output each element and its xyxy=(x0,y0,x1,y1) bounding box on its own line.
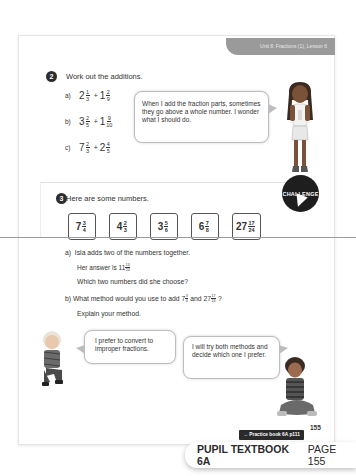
challenge-badge: CHALLENGE xyxy=(282,175,319,212)
unit-lesson-tab: Unit 8: Fractions (1), Lesson 6 xyxy=(226,38,335,55)
number-card: 4 23 xyxy=(109,213,137,240)
boy-right-speech-bubble: I will try both methods and decide which… xyxy=(183,336,280,379)
number-card: 3 56 xyxy=(150,213,178,240)
bubble-tail xyxy=(268,104,277,114)
girl-speech-bubble: When I add the fraction parts, sometimes… xyxy=(134,91,269,143)
part-a-question: Which two numbers did she choose? xyxy=(77,278,188,285)
crouching-boy-character-icon xyxy=(36,330,70,390)
girl-character-icon xyxy=(283,80,317,175)
sitting-boy-character-icon xyxy=(275,355,319,423)
sum-c: c) 7 23 + 2 45 xyxy=(65,141,112,154)
practice-book-link[interactable]: → Practice book 6A p111 xyxy=(239,430,304,440)
number-card: 27 1724 xyxy=(232,213,261,240)
page-number: 155 xyxy=(310,424,321,431)
number-card: 6 78 xyxy=(191,213,219,240)
sum-a: a) 2 13 + 1 29 xyxy=(65,89,112,102)
part-b: b) What method would you use to add 7 34… xyxy=(65,294,222,303)
part-a-answer-line: Her answer is 11 1324 xyxy=(77,263,132,272)
number-card: 7 34 xyxy=(68,213,96,240)
bubble-tail xyxy=(279,345,288,354)
question-2-number: 2 xyxy=(46,71,57,82)
sum-b: b) 3 25 + 1 910 xyxy=(65,115,114,128)
question-2-prompt: Work out the additions. xyxy=(66,72,143,81)
bubble-tail xyxy=(76,345,85,354)
question-3-prompt: Here are some numbers. xyxy=(66,194,149,203)
pupil-textbook-banner: PUPIL TEXTBOOK 6A PAGE 155 xyxy=(185,442,356,468)
part-b-explain: Explain your method. xyxy=(77,310,141,317)
divider-line xyxy=(0,237,356,238)
boy-left-speech-bubble: I prefer to convert to improper fraction… xyxy=(84,330,176,364)
part-a: a) Isla adds two of the numbers together… xyxy=(65,249,190,256)
